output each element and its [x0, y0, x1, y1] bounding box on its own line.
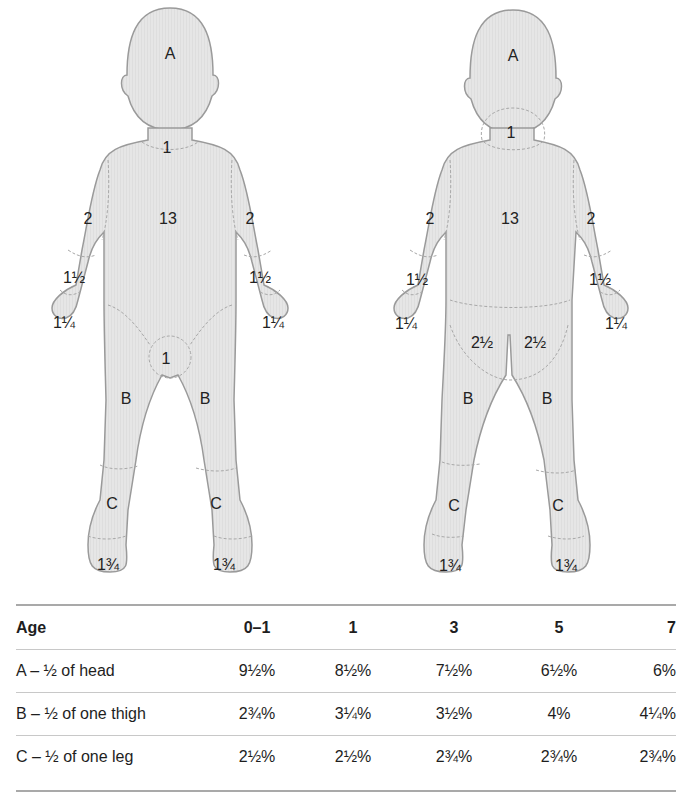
front-figure	[52, 8, 288, 572]
header-age-3: 3	[408, 619, 500, 637]
header-age-7: 7	[618, 619, 676, 637]
back-label-leg-right: C	[552, 497, 564, 515]
front-label-foot-right: 1¾	[213, 556, 235, 574]
cell: 2¾%	[216, 705, 298, 723]
header-age-5: 5	[500, 619, 618, 637]
front-label-leg-right: C	[210, 495, 222, 513]
cell: 2¾%	[618, 748, 676, 766]
row-label: A – ½ of head	[16, 662, 216, 680]
back-label-buttock-right: 2½	[524, 334, 546, 352]
back-label-thigh-left: B	[463, 390, 474, 408]
front-label-neck: 1	[163, 139, 172, 157]
row-label: B – ½ of one thigh	[16, 705, 216, 723]
front-label-leg-left: C	[106, 495, 118, 513]
cell: 7½%	[408, 662, 500, 680]
back-label-leg-left: C	[448, 497, 460, 515]
cell: 6½%	[500, 662, 618, 680]
back-label-trunk: 13	[501, 210, 519, 228]
front-label-trunk: 13	[159, 210, 177, 228]
row-label: C – ½ of one leg	[16, 748, 216, 766]
age-percentage-table: Age 0–1 1 3 5 7 A – ½ of head 9½% 8½% 7½…	[16, 604, 676, 792]
back-label-hand-left: 1¼	[395, 315, 417, 333]
back-label-hand-right: 1¼	[605, 315, 627, 333]
header-age: Age	[16, 619, 216, 637]
table-row: B – ½ of one thigh 2¾% 3¼% 3½% 4% 4¼%	[16, 693, 676, 735]
header-age-1: 1	[298, 619, 408, 637]
back-label-forearm-right: 1½	[589, 271, 611, 289]
cell: 9½%	[216, 662, 298, 680]
table-row: A – ½ of head 9½% 8½% 7½% 6½% 6%	[16, 650, 676, 692]
front-label-thigh-right: B	[200, 390, 211, 408]
front-label-forearm-left: 1½	[63, 269, 85, 287]
cell: 6%	[618, 662, 676, 680]
front-label-hand-left: 1¼	[53, 314, 75, 332]
front-label-thigh-left: B	[121, 390, 132, 408]
front-label-upper-arm-right: 2	[246, 210, 255, 228]
back-label-thigh-right: B	[542, 390, 553, 408]
back-label-neck: 1	[507, 124, 516, 142]
cell: 8½%	[298, 662, 408, 680]
back-label-forearm-left: 1½	[406, 271, 428, 289]
back-label-foot-left: 1¾	[439, 557, 461, 575]
back-label-head: A	[508, 47, 519, 65]
front-label-upper-arm-left: 2	[84, 210, 93, 228]
table-bottom-rule	[16, 790, 676, 792]
body-outline-svg	[0, 0, 692, 600]
cell: 4¼%	[618, 705, 676, 723]
cell: 3½%	[408, 705, 500, 723]
table-row: C – ½ of one leg 2½% 2½% 2¾% 2¾% 2¾%	[16, 736, 676, 778]
back-label-buttock-left: 2½	[471, 334, 493, 352]
front-label-forearm-right: 1½	[249, 269, 271, 287]
front-label-foot-left: 1¾	[97, 556, 119, 574]
back-label-upper-arm-left: 2	[426, 210, 435, 228]
front-label-head: A	[165, 45, 176, 63]
back-figure	[394, 10, 628, 572]
body-diagrams: A 1 13 2 2 1½ 1½ 1¼ 1¼ 1 B B C C 1¾ 1¾ A…	[0, 0, 692, 600]
front-label-hand-right: 1¼	[262, 314, 284, 332]
cell: 2½%	[298, 748, 408, 766]
back-label-upper-arm-right: 2	[587, 210, 596, 228]
cell: 2¾%	[500, 748, 618, 766]
header-age-0-1: 0–1	[216, 619, 298, 637]
back-label-foot-right: 1¾	[555, 557, 577, 575]
cell: 3¼%	[298, 705, 408, 723]
front-label-genitals: 1	[162, 350, 171, 368]
cell: 4%	[500, 705, 618, 723]
cell: 2¾%	[408, 748, 500, 766]
table-header-row: Age 0–1 1 3 5 7	[16, 606, 676, 649]
cell: 2½%	[216, 748, 298, 766]
